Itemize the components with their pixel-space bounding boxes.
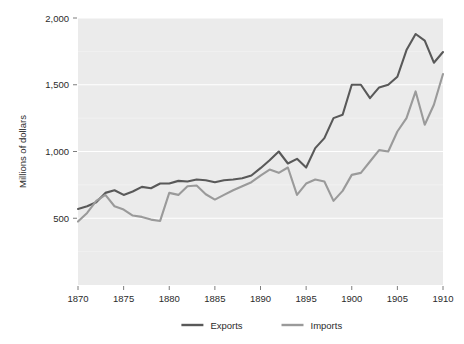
x-tick-label-1: 1875 [113, 293, 134, 304]
x-axis: 187018751880188518901895190019051910 [67, 286, 453, 304]
y-axis: 5001,0001,5002,000 [45, 13, 77, 224]
x-tick-label-5: 1895 [296, 293, 317, 304]
chart-container: 1870187518801885189018951900190519105001… [0, 0, 464, 344]
legend: ExportsImports [181, 320, 342, 331]
x-tick-label-3: 1885 [204, 293, 225, 304]
x-tick-label-4: 1890 [250, 293, 271, 304]
y-tick-label-2: 1,500 [45, 79, 69, 90]
x-tick-label-6: 1900 [341, 293, 362, 304]
line-chart: 1870187518801885189018951900190519105001… [0, 0, 464, 344]
legend-item-exports[interactable]: Exports [181, 320, 242, 331]
legend-label-imports: Imports [311, 320, 343, 331]
y-tick-label-3: 2,000 [45, 13, 69, 24]
x-tick-label-8: 1910 [432, 293, 453, 304]
y-tick-label-0: 500 [53, 213, 69, 224]
x-tick-label-0: 1870 [67, 293, 88, 304]
y-tick-label-1: 1,000 [45, 146, 69, 157]
legend-item-imports[interactable]: Imports [282, 320, 343, 331]
x-tick-label-7: 1905 [387, 293, 408, 304]
y-axis-title: Millions of dollars [17, 115, 28, 188]
legend-label-exports: Exports [210, 320, 242, 331]
x-tick-label-2: 1880 [159, 293, 180, 304]
